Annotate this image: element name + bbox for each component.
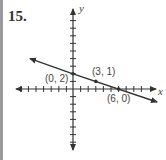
point-0-2 — [71, 72, 75, 76]
point-label-3-1: (3, 1) — [92, 66, 115, 77]
y-axis — [70, 9, 76, 150]
point-label-0-2: (0, 2) — [45, 73, 68, 84]
point-label-6-0: (6, 0) — [107, 93, 130, 104]
y-axis-label: y — [78, 2, 84, 14]
point-3-1 — [94, 80, 98, 84]
x-axis — [16, 86, 156, 92]
point-6-0 — [117, 87, 121, 91]
coordinate-graph: y x (0, 2) (3, 1) (6, 0) — [0, 0, 166, 160]
x-axis-label: x — [157, 85, 163, 97]
